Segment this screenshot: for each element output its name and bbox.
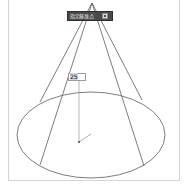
cone-edge-left-inner [40,3,92,165]
drawing-canvas[interactable]: 指定基准点 25 [0,0,184,185]
dimension-input[interactable]: 25 [68,73,86,81]
cone-drawing [0,0,184,185]
command-prompt-toolbar[interactable]: 指定基准点 [67,11,113,21]
center-point [78,141,80,143]
square-options-icon[interactable] [102,13,108,19]
cone-edge-right-inner [92,3,144,166]
cone-base-ellipse [17,92,165,178]
toolbar-label: 指定基准点 [68,12,102,20]
radius-rubberband-line [79,134,91,142]
dimension-value: 25 [70,73,78,80]
